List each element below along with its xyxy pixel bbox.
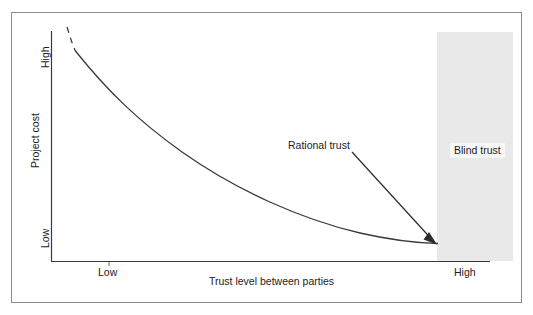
figure-container: Project cost High Low Low High Trust lev… — [0, 0, 533, 315]
cost-curve — [76, 51, 438, 244]
x-axis-label: Trust level between parties — [209, 276, 334, 287]
rational-trust-annotation: Rational trust — [288, 140, 350, 151]
rational-trust-arrow-line — [352, 152, 431, 238]
x-axis-tick-low: Low — [98, 267, 117, 278]
y-axis-tick-low: Low — [40, 229, 51, 248]
x-axis-tick-high: High — [454, 267, 476, 278]
cost-curve-dashed-segment — [67, 27, 76, 51]
y-axis-tick-high: High — [40, 46, 51, 68]
blind-trust-annotation: Blind trust — [450, 143, 505, 158]
y-axis-label: Project cost — [30, 113, 41, 168]
